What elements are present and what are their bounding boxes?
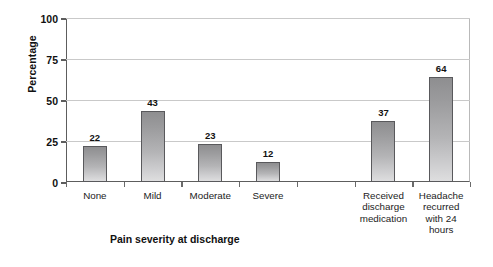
y-axis-tick-mark bbox=[61, 100, 66, 102]
y-axis-tick-label: 0 bbox=[52, 177, 58, 189]
x-axis-tick-mark bbox=[412, 182, 413, 187]
x-axis-title: Pain severity at discharge bbox=[110, 233, 240, 245]
bar bbox=[429, 77, 453, 182]
x-axis-tick-mark bbox=[66, 182, 67, 187]
plot-area: 0255075100 224323123764 bbox=[66, 18, 470, 182]
x-axis-tick-mark bbox=[297, 182, 298, 187]
x-axis-category-label: Headache recurred with 24 hours bbox=[403, 190, 479, 236]
bar-value-label: 64 bbox=[436, 63, 447, 74]
bar-chart-figure: Percentage 0255075100 224323123764 NoneM… bbox=[0, 0, 493, 267]
y-axis-tick: 100 bbox=[40, 9, 66, 27]
bar-value-label: 23 bbox=[205, 130, 216, 141]
bar bbox=[371, 121, 395, 182]
x-axis-tick-mark bbox=[355, 182, 356, 187]
y-axis-tick: 50 bbox=[46, 91, 66, 109]
gridline bbox=[66, 18, 470, 19]
y-axis-tick-mark bbox=[61, 59, 66, 61]
y-axis-tick-label: 25 bbox=[46, 136, 58, 148]
bar-value-label: 43 bbox=[147, 97, 158, 108]
bar bbox=[198, 144, 222, 182]
bar-value-label: 37 bbox=[378, 107, 389, 118]
bar-value-label: 12 bbox=[263, 148, 274, 159]
y-axis-tick-label: 100 bbox=[40, 13, 58, 25]
y-axis-tick-mark bbox=[61, 141, 66, 143]
y-axis-title: Percentage bbox=[26, 4, 38, 124]
y-axis-tick-label: 50 bbox=[46, 95, 58, 107]
bar bbox=[141, 111, 165, 182]
gridline bbox=[66, 141, 470, 142]
y-axis-tick: 75 bbox=[46, 50, 66, 68]
y-axis-tick: 25 bbox=[46, 132, 66, 150]
gridline bbox=[66, 59, 470, 60]
bar bbox=[83, 146, 107, 182]
y-axis-tick-label: 75 bbox=[46, 54, 58, 66]
y-axis-tick-mark bbox=[61, 18, 66, 20]
bar-value-label: 22 bbox=[90, 132, 101, 143]
x-axis-tick-mark bbox=[470, 182, 471, 187]
gridline bbox=[66, 100, 470, 101]
bar bbox=[256, 162, 280, 182]
x-axis-tick-mark bbox=[239, 182, 240, 187]
x-axis-tick-mark bbox=[181, 182, 182, 187]
x-axis-tick-mark bbox=[124, 182, 125, 187]
y-axis-tick: 0 bbox=[52, 173, 66, 191]
x-axis-category-label: Severe bbox=[230, 190, 306, 201]
